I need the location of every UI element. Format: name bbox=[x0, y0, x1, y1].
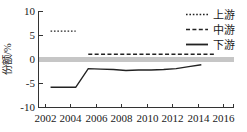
x-tick-label-2010: 2010 bbox=[137, 112, 160, 124]
y-tick-label-5: 5 bbox=[30, 29, 36, 41]
x-tick-label-2016: 2016 bbox=[213, 112, 236, 124]
y-tick-label-neg10: -10 bbox=[20, 101, 35, 113]
x-tick-label-2002: 2002 bbox=[35, 112, 57, 124]
y-tick-label-10: 10 bbox=[24, 5, 36, 17]
y-tick-label-neg5: -5 bbox=[26, 77, 36, 89]
x-tick-label-2014: 2014 bbox=[188, 112, 211, 124]
legend-label-zhongyou: 中游 bbox=[213, 24, 235, 36]
y-axis-title: 份额/% bbox=[1, 43, 13, 75]
chart-figure: 10 5 0 -5 -10 2002 2004 2006 2008 2010 2… bbox=[0, 0, 247, 132]
x-tick-label-2004: 2004 bbox=[60, 112, 83, 124]
y-tick-label-0: 0 bbox=[30, 53, 36, 65]
legend-label-xiayou: 下游 bbox=[213, 39, 235, 51]
x-tick-label-2006: 2006 bbox=[86, 112, 109, 124]
legend-label-shangyou: 上游 bbox=[213, 9, 235, 21]
x-tick-label-2012: 2012 bbox=[162, 112, 184, 124]
line-chart: 10 5 0 -5 -10 2002 2004 2006 2008 2010 2… bbox=[0, 0, 247, 132]
x-tick-label-2008: 2008 bbox=[111, 112, 134, 124]
